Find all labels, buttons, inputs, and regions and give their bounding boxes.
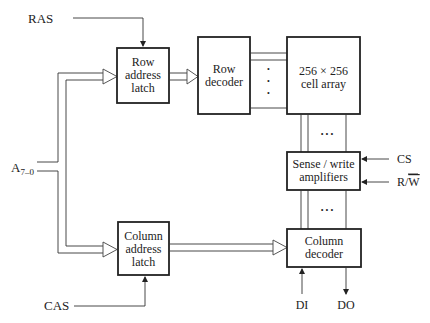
sense-write-amplifiers: Sense / write amplifiers — [287, 152, 360, 190]
bus-arrow-to-col-latch — [103, 242, 117, 257]
row-lines: • • • — [250, 53, 287, 108]
cs-signal: CS — [362, 152, 412, 166]
svg-text:amplifiers: amplifiers — [299, 170, 348, 184]
svg-text:256 × 256: 256 × 256 — [299, 64, 348, 78]
svg-text:Sense / write: Sense / write — [293, 157, 355, 171]
column-lines-lower: • • • — [301, 190, 346, 229]
bus-arrow-to-row-latch — [103, 69, 117, 84]
svg-text:• • •: • • • — [321, 206, 334, 215]
svg-text:decoder: decoder — [205, 75, 243, 89]
dram-block-diagram: RAS A7–0 Row address latch Row decoder — [0, 0, 430, 323]
bus-col-latch-to-decoder — [169, 240, 287, 255]
svg-text:address: address — [126, 242, 162, 256]
svg-text:Column: Column — [305, 234, 344, 248]
rw-signal: R/W — [362, 174, 420, 189]
svg-text:CS: CS — [397, 152, 412, 166]
svg-text:R/W: R/W — [397, 175, 420, 189]
svg-text:• • •: • • • — [321, 130, 334, 139]
svg-text:CAS: CAS — [44, 298, 69, 313]
ras-label: RAS — [28, 11, 53, 26]
column-lines-upper: • • • — [301, 114, 346, 152]
address-label: A7–0 — [11, 160, 34, 177]
ras-arrow — [73, 18, 143, 46]
ras-signal: RAS — [28, 11, 143, 46]
svg-text:•: • — [267, 65, 270, 74]
di-signal: DI — [296, 269, 309, 312]
address-bus: A7–0 — [11, 69, 117, 257]
cas-signal: CAS — [44, 277, 145, 313]
address-bus-line-inner — [66, 80, 103, 246]
svg-text:Row: Row — [132, 55, 155, 69]
svg-text:latch: latch — [131, 81, 154, 95]
cell-array: 256 × 256 cell array — [287, 37, 360, 114]
address-bus-line-col-outer — [37, 171, 103, 253]
bus-row-latch-to-decoder — [169, 69, 198, 84]
svg-text:cell array: cell array — [301, 77, 346, 91]
svg-text:Column: Column — [124, 229, 163, 243]
svg-text:address: address — [125, 68, 161, 82]
svg-text:Row: Row — [213, 62, 236, 76]
column-decoder: Column decoder — [287, 229, 361, 267]
svg-text:latch: latch — [132, 255, 155, 269]
column-address-latch: Column address latch — [118, 222, 169, 275]
do-signal: DO — [337, 267, 355, 312]
svg-text:•: • — [267, 89, 270, 98]
row-decoder: Row decoder — [198, 37, 250, 114]
svg-text:DO: DO — [337, 298, 355, 312]
svg-text:decoder: decoder — [305, 247, 343, 261]
address-bus-line-row-outer — [37, 73, 103, 162]
svg-text:•: • — [267, 77, 270, 86]
row-address-latch: Row address latch — [117, 48, 169, 103]
svg-text:DI: DI — [296, 298, 309, 312]
